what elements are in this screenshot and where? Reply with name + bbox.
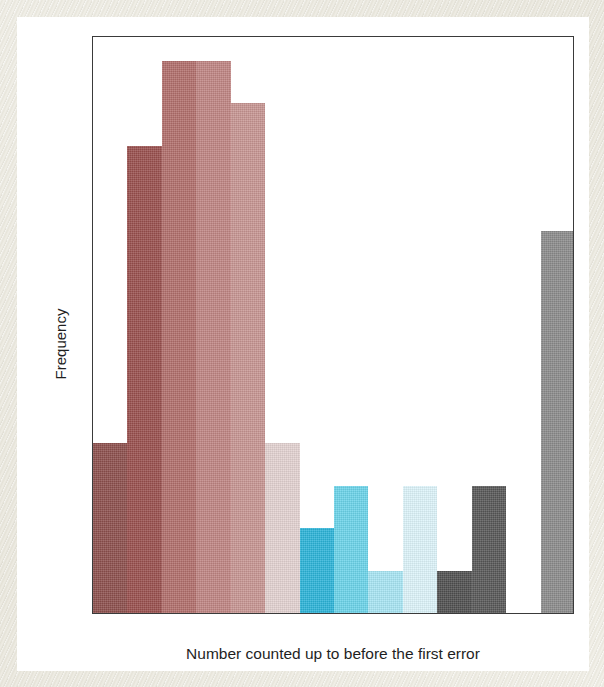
x-axis-tick-mark: [506, 613, 507, 614]
x-axis-tick-mark: [127, 613, 128, 614]
y-axis-tick-mark: [92, 507, 93, 508]
x-axis-title: Number counted up to before the first er…: [92, 645, 574, 663]
histogram-bar: [196, 61, 230, 614]
x-axis-tick: 15.00: [183, 613, 209, 614]
x-axis-tick: 60.00: [493, 613, 519, 614]
x-axis-tick: 10.00: [149, 613, 175, 614]
histogram-bar: [162, 61, 196, 614]
histogram-bar: [368, 571, 402, 614]
histogram-bar: [403, 486, 437, 614]
y-axis-tick: 2.5: [92, 498, 93, 516]
figure-canvas: Frequency 0.02.55.07.510.012.5 0.005.001…: [17, 17, 589, 671]
x-axis-tick-mark: [471, 613, 472, 614]
x-axis-tick: 50.00: [424, 613, 450, 614]
y-axis-tick: 10.0: [92, 179, 93, 197]
x-axis-tick-mark: [265, 613, 266, 614]
x-axis-tick-mark: [368, 613, 369, 614]
x-axis-tick-mark: [333, 613, 334, 614]
histogram-bar: [541, 231, 574, 614]
x-axis-tick-mark: [299, 613, 300, 614]
x-axis-tick-mark: [196, 613, 197, 614]
x-axis-tick-mark: [437, 613, 438, 614]
histogram-bar: [231, 103, 265, 613]
y-axis-title: Frequency: [52, 309, 69, 380]
histogram-bar: [127, 146, 161, 614]
x-axis-tick-mark: [402, 613, 403, 614]
x-axis-tick: 25.00: [252, 613, 278, 614]
y-axis-tick-mark: [92, 401, 93, 402]
y-axis-tick: 12.5: [92, 73, 93, 91]
x-axis-tick: 0.00: [92, 613, 103, 614]
x-axis-tick: 35.00: [321, 613, 347, 614]
x-axis-tick-mark: [161, 613, 162, 614]
y-axis-tick-mark: [92, 188, 93, 189]
x-axis-tick: 65.00: [528, 613, 554, 614]
x-axis-tick-mark: [92, 613, 93, 614]
y-axis-tick: 7.5: [92, 285, 93, 303]
y-axis-tick-mark: [92, 295, 93, 296]
y-axis-tick-mark: [92, 82, 93, 83]
histogram-bar: [472, 486, 506, 614]
x-axis-tick: 30.00: [287, 613, 313, 614]
x-axis-tick: 20.00: [218, 613, 244, 614]
x-axis-tick: 55.00: [459, 613, 485, 614]
x-axis-tick: 45.00: [390, 613, 416, 614]
histogram-bar: [334, 486, 368, 614]
histogram-bar: [300, 528, 334, 613]
figure-frame: Frequency 0.02.55.07.510.012.5 0.005.001…: [0, 0, 604, 687]
histogram-bar: [265, 443, 299, 613]
x-axis-tick: 5.00: [117, 613, 137, 614]
histogram-bar: [437, 571, 471, 614]
y-axis-tick: 5.0: [92, 392, 93, 410]
x-axis-tick-mark: [540, 613, 541, 614]
plot-area: 0.02.55.07.510.012.5 0.005.0010.0015.002…: [92, 36, 574, 614]
x-axis-tick-mark: [230, 613, 231, 614]
x-axis-tick: 40.00: [355, 613, 381, 614]
x-axis-tick: 70.00: [562, 613, 574, 614]
y-axis-tick-mark: [92, 613, 93, 614]
histogram-bar: [93, 443, 127, 613]
